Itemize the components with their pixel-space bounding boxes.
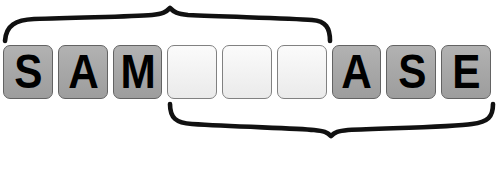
tile-row: S A M <box>3 45 496 99</box>
letter-tile-7-box: A <box>332 45 382 99</box>
letter-tile-4-box <box>167 45 217 99</box>
letter-tile-9-letter: E <box>452 48 479 95</box>
bottom-brace-path <box>170 104 493 136</box>
letter-tile-8[interactable]: S <box>386 45 441 99</box>
letter-tile-8-letter: S <box>398 48 425 95</box>
letter-tile-3[interactable]: M <box>113 45 168 99</box>
letter-tile-9[interactable]: E <box>441 45 496 99</box>
letter-tile-5[interactable] <box>222 45 277 99</box>
letter-tile-4[interactable] <box>167 45 222 99</box>
letter-tile-1-letter: S <box>14 48 41 95</box>
letter-tile-7[interactable]: A <box>332 45 387 99</box>
letter-tile-7-letter: A <box>342 48 372 95</box>
letter-tile-8-box: S <box>386 45 436 99</box>
letter-tile-1-box: S <box>3 45 53 99</box>
letter-tile-6-box <box>277 45 327 99</box>
top-brace-path <box>5 8 330 41</box>
letter-tile-2-letter: A <box>68 48 98 95</box>
letter-tile-6[interactable] <box>277 45 332 99</box>
letter-tile-2[interactable]: A <box>58 45 113 99</box>
letter-tile-1[interactable]: S <box>3 45 58 99</box>
letter-tile-3-box: M <box>113 45 163 99</box>
puzzle-canvas: S A M <box>0 0 499 189</box>
letter-tile-9-box: E <box>441 45 491 99</box>
letter-tile-5-box <box>222 45 272 99</box>
letter-tile-2-box: A <box>58 45 108 99</box>
letter-tile-3-letter: M <box>120 48 154 95</box>
